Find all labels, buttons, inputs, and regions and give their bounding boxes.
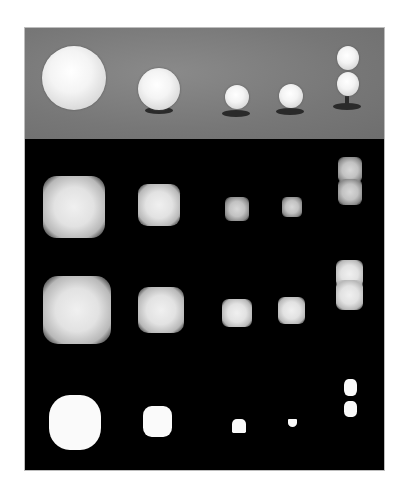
sphere-large [42, 46, 106, 110]
mask-1 [49, 395, 101, 450]
mask-3 [232, 419, 246, 433]
blob-4 [278, 297, 305, 324]
sphere-stacked-top [337, 46, 359, 70]
sphere-stacked-bottom [337, 72, 359, 96]
mask-4 [288, 419, 297, 427]
stem-5 [345, 96, 349, 106]
blob-2 [138, 184, 180, 226]
blob-5-bottom [336, 280, 363, 310]
mask-5-bottom [344, 401, 357, 417]
blob-1 [43, 276, 111, 344]
blurred-row [25, 139, 384, 250]
sphere-small-2 [279, 84, 303, 108]
mask-2 [143, 406, 172, 437]
blob-4 [282, 197, 302, 217]
photo-row [25, 28, 384, 139]
smoothed-row [25, 250, 384, 361]
sphere-medium [138, 68, 180, 110]
blob-2 [138, 287, 184, 333]
binary-row [25, 361, 384, 471]
blob-3 [222, 299, 252, 327]
stand-4 [276, 108, 304, 115]
stand-3 [222, 110, 250, 117]
blob-1 [43, 176, 105, 238]
figure-panel [24, 27, 385, 471]
blob-5-bottom [338, 179, 362, 205]
sphere-small-1 [225, 85, 249, 109]
blob-3 [225, 197, 249, 221]
mask-5-top [344, 379, 357, 396]
